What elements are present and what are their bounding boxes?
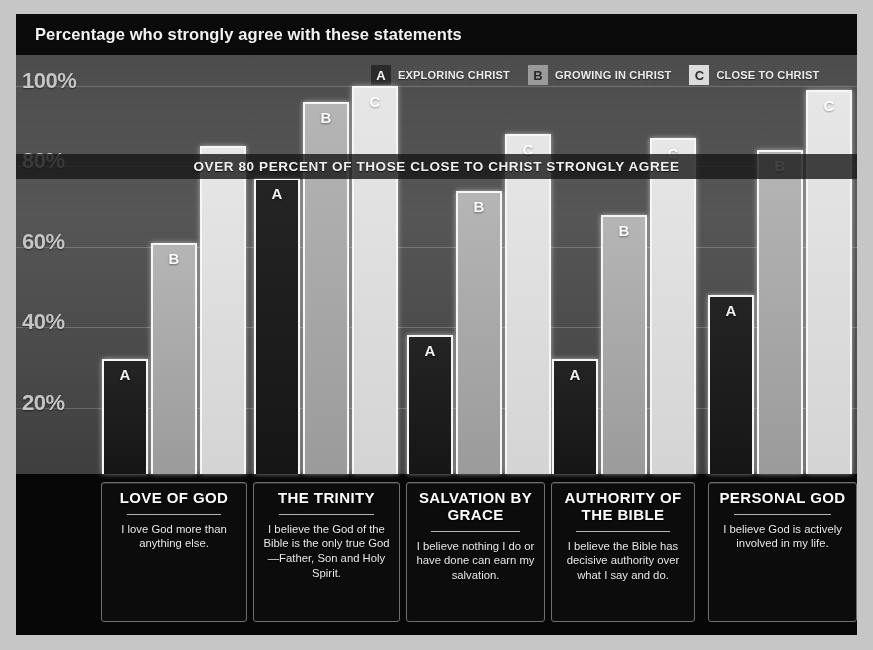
divider [576,531,669,532]
bar-letter-c: C [354,93,396,110]
bar-letter-a: A [554,366,596,383]
bar-group: ABC [552,55,696,474]
statement-card-title: SALVATION BY GRACE [415,490,536,524]
statement-card-title: AUTHORITY OF THE BIBLE [560,490,686,524]
bar-group: ABC [407,55,551,474]
bar-letter-b: B [153,250,195,267]
bar-a[interactable]: A [407,335,453,474]
y-tick-label-60: 60% [22,229,65,255]
bar-letter-c: C [808,97,850,114]
bar-c[interactable]: C [200,146,246,474]
bar-letter-a: A [409,342,451,359]
divider [127,514,222,515]
divider [279,514,374,515]
statement-card-description: I love God more than anything else. [110,522,238,551]
bar-letter-a: A [256,185,298,202]
bar-letter-b: B [458,198,500,215]
threshold-banner-text: OVER 80 PERCENT OF THOSE CLOSE TO CHRIST… [193,159,679,174]
statement-card-description: I believe the Bible has decisive authori… [560,539,686,583]
bar-c[interactable]: C [650,138,696,474]
page-title: Percentage who strongly agree with these… [16,25,462,44]
statement-card[interactable]: AUTHORITY OF THE BIBLEI believe the Bibl… [551,482,695,622]
statement-card[interactable]: THE TRINITYI believe the God of the Bibl… [253,482,400,622]
infographic-root: Percentage who strongly agree with these… [0,0,873,650]
bar-group: ABC [708,55,852,474]
y-tick-label-20: 20% [22,390,65,416]
statement-card-description: I believe the God of the Bible is the on… [262,522,391,581]
divider [734,514,831,515]
y-tick-label-100: 100% [22,68,76,94]
bar-group: ABC [102,55,246,474]
bar-a[interactable]: A [102,359,148,474]
bar-letter-a: A [104,366,146,383]
bar-b[interactable]: B [757,150,803,474]
bar-letter-a: A [710,302,752,319]
statement-card[interactable]: LOVE OF GODI love God more than anything… [101,482,247,622]
divider [431,531,521,532]
bar-letter-b: B [603,222,645,239]
statement-card-title: THE TRINITY [278,490,375,507]
bar-letter-b: B [305,109,347,126]
plot-area: 20%40%60%80%100% AEXPLORING CHRISTBGROWI… [16,55,857,474]
chart-header: Percentage who strongly agree with these… [16,14,857,55]
bar-c[interactable]: C [806,90,852,474]
bar-a[interactable]: A [552,359,598,474]
y-tick-label-40: 40% [22,309,65,335]
bar-b[interactable]: B [456,191,502,474]
statement-cards: LOVE OF GODI love God more than anything… [16,474,857,635]
bar-a[interactable]: A [254,178,300,474]
statement-card-description: I believe nothing I do or have done can … [415,539,536,583]
statement-card-title: PERSONAL GOD [719,490,845,507]
bar-b[interactable]: B [601,215,647,474]
statement-card-description: I believe God is actively involved in my… [717,522,848,551]
chart-panel: Percentage who strongly agree with these… [16,14,857,635]
statement-card[interactable]: SALVATION BY GRACEI believe nothing I do… [406,482,545,622]
statement-card-title: LOVE OF GOD [120,490,229,507]
bar-c[interactable]: C [352,86,398,474]
bar-b[interactable]: B [151,243,197,474]
bar-group: ABC [254,55,398,474]
bar-a[interactable]: A [708,295,754,474]
threshold-banner: OVER 80 PERCENT OF THOSE CLOSE TO CHRIST… [16,154,857,179]
bar-c[interactable]: C [505,134,551,474]
statement-card[interactable]: PERSONAL GODI believe God is actively in… [708,482,857,622]
